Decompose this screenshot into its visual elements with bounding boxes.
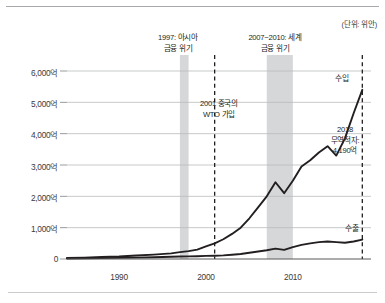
x-tick-label: 2000 xyxy=(184,272,228,282)
x-tick-label: 1990 xyxy=(97,272,141,282)
y-tick-label: 4,000억 xyxy=(12,128,58,140)
annotation-deficit-label: 무역적자: xyxy=(312,136,378,147)
chart-figure: (단위: 위안) 01,000억2,000억3,000억4,000억5,000억… xyxy=(0,0,385,303)
y-tick-label: 0 xyxy=(12,254,58,264)
annotation-deficit-value: 4,190억 xyxy=(312,146,378,157)
y-tick-label: 2,000억 xyxy=(12,191,58,203)
y-tick-label: 5,000억 xyxy=(12,97,58,109)
annotation-asia-crisis-line1: 1997: 아시아 xyxy=(142,33,214,44)
annotation-trade-deficit: 2018 무역적자: 4,190억 xyxy=(312,125,378,157)
shaded-band xyxy=(267,55,293,259)
annotation-wto-line1: 2001 중국의 xyxy=(182,99,256,110)
annotation-global-crisis-line1: 2007~2010: 세계 xyxy=(232,33,318,44)
series-label-export: 수출 xyxy=(345,222,359,233)
y-tick-label: 3,000억 xyxy=(12,160,58,172)
annotation-wto-accession: 2001 중국의 WTO 가입 xyxy=(182,99,256,120)
annotation-global-crisis-line2: 금융 위기 xyxy=(232,44,318,55)
annotation-deficit-year: 2018 xyxy=(312,125,378,136)
y-tick-label: 1,000억 xyxy=(12,222,58,234)
annotation-asia-crisis-line2: 금융 위기 xyxy=(142,44,214,55)
shaded-band xyxy=(180,55,189,259)
series-label-import: 수입 xyxy=(335,72,349,83)
y-tick-label: 6,000억 xyxy=(12,66,58,78)
crisis-shaded-bands xyxy=(180,55,293,259)
annotation-wto-line2: WTO 가입 xyxy=(182,110,256,121)
annotation-global-crisis: 2007~2010: 세계 금융 위기 xyxy=(232,33,318,54)
x-tick-label: 2010 xyxy=(271,272,315,282)
annotation-asia-crisis: 1997: 아시아 금융 위기 xyxy=(142,33,214,54)
